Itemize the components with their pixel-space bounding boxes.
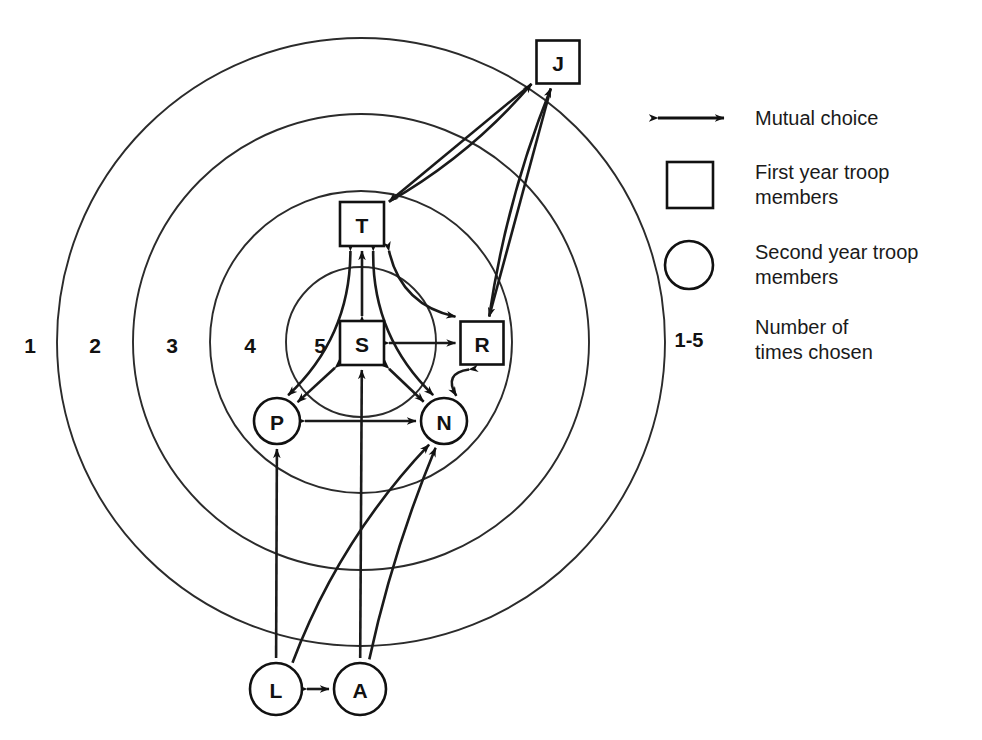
node-a[interactable]: A bbox=[334, 663, 386, 715]
node-r[interactable]: R bbox=[461, 322, 504, 365]
legend: Mutual choiceFirst year troopmembersSeco… bbox=[658, 107, 918, 363]
legend-item-first-year-troop: First year troopmembers bbox=[667, 161, 889, 208]
node-label-p: P bbox=[270, 411, 284, 434]
times-chosen-range-label: 1-5 bbox=[675, 329, 704, 351]
node-p[interactable]: P bbox=[254, 398, 300, 444]
edge-l-p bbox=[276, 449, 277, 658]
node-t[interactable]: T bbox=[340, 202, 384, 246]
legend-item-mutual-choice: Mutual choice bbox=[658, 107, 878, 129]
legend-label-second-year-troop-line2: members bbox=[755, 266, 838, 288]
edge-a-s bbox=[360, 370, 362, 658]
node-label-t: T bbox=[356, 214, 369, 237]
legend-label-mutual-choice-line1: Mutual choice bbox=[755, 107, 878, 129]
legend-label-second-year-troop-line1: Second year troop bbox=[755, 241, 918, 263]
edge-r-n bbox=[452, 370, 469, 396]
node-label-r: R bbox=[474, 333, 489, 356]
legend-label-times-chosen-line2: times chosen bbox=[755, 341, 873, 363]
edge-t-r bbox=[389, 251, 456, 317]
sociogram-svg: 12345 JTSRPNLA Mutual choiceFirst year t… bbox=[0, 0, 982, 740]
edge-j-t bbox=[389, 84, 532, 202]
legend-label-first-year-troop-line2: members bbox=[755, 186, 838, 208]
ring-number-3: 3 bbox=[166, 334, 178, 357]
node-label-a: A bbox=[352, 679, 367, 702]
legend-label-times-chosen-line1: Number of bbox=[755, 316, 849, 338]
node-n[interactable]: N bbox=[421, 398, 467, 444]
ring-number-4: 4 bbox=[244, 334, 256, 357]
node-j[interactable]: J bbox=[537, 41, 580, 84]
first-year-square-icon bbox=[667, 162, 713, 208]
ring-number-1: 1 bbox=[24, 334, 36, 357]
sociogram-canvas: 12345 JTSRPNLA Mutual choiceFirst year t… bbox=[0, 0, 982, 740]
node-label-j: J bbox=[552, 52, 564, 75]
ring-number-2: 2 bbox=[89, 334, 101, 357]
node-l[interactable]: L bbox=[250, 663, 302, 715]
edge-layer bbox=[276, 84, 551, 689]
legend-item-second-year-troop: Second year troopmembers bbox=[665, 241, 918, 289]
ring-number-labels: 12345 bbox=[24, 334, 326, 357]
legend-label-first-year-troop-line1: First year troop bbox=[755, 161, 889, 183]
second-year-circle-icon bbox=[665, 241, 713, 289]
node-label-s: S bbox=[355, 333, 369, 356]
ring-number-5: 5 bbox=[314, 334, 326, 357]
edge-s-n bbox=[389, 369, 424, 402]
node-label-l: L bbox=[270, 679, 283, 702]
edge-s-p bbox=[298, 368, 335, 402]
node-s[interactable]: S bbox=[340, 321, 384, 365]
node-label-n: N bbox=[436, 411, 451, 434]
legend-item-times-chosen: 1-5Number oftimes chosen bbox=[675, 316, 873, 363]
